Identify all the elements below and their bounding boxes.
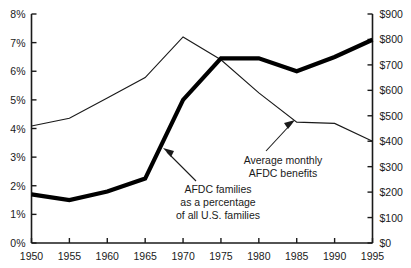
x-axis: 1950195519601965197019751980198519901995 — [20, 238, 385, 262]
right-axis: $0$100$200$300$400$500$600$700$800$900 — [368, 8, 404, 249]
afdc-families-arrowhead — [163, 148, 174, 157]
x-tick-label: 1955 — [58, 250, 82, 262]
right-tick-label: $400 — [380, 135, 404, 147]
afdc-families-label-line-1: AFDC families — [184, 183, 251, 195]
left-tick-label: 8% — [10, 8, 25, 20]
right-tick-label: $300 — [380, 161, 404, 173]
left-axis-tick-labels: 0%1%2%3%4%5%6%7%8% — [10, 8, 25, 249]
right-tick-label: $100 — [380, 212, 404, 224]
right-tick-label: $500 — [380, 110, 404, 122]
x-axis-tick-labels: 1950195519601965197019751980198519901995 — [20, 250, 385, 262]
right-tick-label: $800 — [380, 33, 404, 45]
afdc-chart: 0%1%2%3%4%5%6%7%8% $0$100$200$300$400$50… — [0, 0, 411, 268]
x-tick-label: 1990 — [323, 250, 347, 262]
left-tick-label: 6% — [10, 65, 25, 77]
right-tick-label: $900 — [380, 8, 404, 20]
afdc-families-arrow-line — [167, 152, 196, 181]
chart-canvas: 0%1%2%3%4%5%6%7%8% $0$100$200$300$400$50… — [0, 0, 411, 268]
x-tick-label: 1950 — [20, 250, 44, 262]
avg-benefits-label-line-2: AFDC benefits — [249, 167, 317, 179]
x-tick-label: 1985 — [285, 250, 309, 262]
avg-benefits-arrow-line — [266, 124, 291, 151]
left-tick-label: 7% — [10, 37, 25, 49]
x-tick-label: 1965 — [133, 250, 157, 262]
right-tick-label: $200 — [380, 186, 404, 198]
x-tick-label: 1980 — [247, 250, 271, 262]
left-axis: 0%1%2%3%4%5%6%7%8% — [10, 8, 36, 249]
right-tick-label: $0 — [380, 237, 392, 249]
right-tick-label: $700 — [380, 59, 404, 71]
left-tick-label: 1% — [10, 208, 25, 220]
avg-benefits-annotation: Average monthly AFDC benefits — [244, 120, 323, 179]
left-tick-label: 0% — [10, 237, 25, 249]
x-tick-label: 1975 — [209, 250, 233, 262]
left-tick-label: 3% — [10, 151, 25, 163]
x-tick-label: 1970 — [171, 250, 195, 262]
left-tick-label: 2% — [10, 180, 25, 192]
avg-benefits-label-line-1: Average monthly — [244, 154, 323, 166]
x-tick-label: 1960 — [96, 250, 120, 262]
afdc-families-label-line-3: of all U.S. families — [176, 209, 260, 221]
right-axis-tick-labels: $0$100$200$300$400$500$600$700$800$900 — [380, 8, 404, 249]
left-tick-label: 4% — [10, 123, 25, 135]
series-line-avg-benefits — [32, 37, 373, 141]
avg-benefits-arrowhead — [284, 120, 295, 129]
left-tick-label: 5% — [10, 94, 25, 106]
right-tick-label: $600 — [380, 84, 404, 96]
afdc-families-label-line-2: as a percentage — [180, 196, 255, 208]
x-tick-label: 1995 — [361, 250, 385, 262]
series-line-afdc-families — [32, 40, 373, 200]
